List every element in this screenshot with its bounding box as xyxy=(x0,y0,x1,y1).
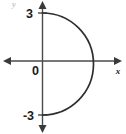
x-axis xyxy=(3,57,122,65)
graph-figure: 3 0 -3 x y xyxy=(0,0,126,134)
x-axis-left-arrowhead xyxy=(3,57,11,65)
y-axis-top-arrowhead xyxy=(39,1,47,9)
y-axis-bottom-arrowhead xyxy=(39,125,47,133)
x-axis-label: x xyxy=(115,66,121,76)
x-axis-right-arrowhead xyxy=(114,57,122,65)
origin-label: 0 xyxy=(32,64,39,78)
coordinate-plane-svg: 3 0 -3 x y xyxy=(0,0,126,134)
semicircle-curve xyxy=(43,13,94,115)
y-axis-label: y xyxy=(11,0,17,9)
semicircle-curve-group xyxy=(43,13,94,115)
y-tick-label-3: 3 xyxy=(26,7,33,21)
y-axis xyxy=(39,1,47,133)
y-tick-label-negative-3: -3 xyxy=(23,109,34,123)
